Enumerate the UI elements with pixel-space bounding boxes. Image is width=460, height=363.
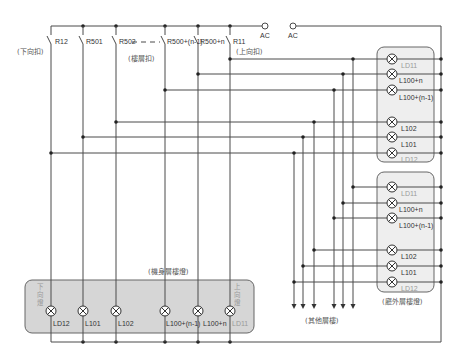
hall-upper-lamp-label: L100+(n-1) — [399, 94, 433, 102]
svg-text:燈: 燈 — [37, 298, 44, 307]
up-switch-caption: (上向扣) — [236, 47, 263, 56]
hall-lower-lamp-label: LD12 — [401, 285, 418, 292]
lamp-icon — [387, 198, 397, 208]
hall-upper-lamp-label: L100+n — [399, 77, 423, 84]
svg-text:下: 下 — [37, 283, 44, 291]
hall-lower-lamp-label: L100+n — [399, 206, 423, 213]
bottom-common-rail — [51, 340, 441, 344]
car-panel-up-indicator-text: 上 向 燈 — [234, 282, 241, 307]
lamp-icon — [387, 261, 397, 271]
lamp-icon — [111, 306, 121, 316]
svg-text:向: 向 — [234, 290, 241, 299]
lamp-icon — [78, 306, 88, 316]
elevator-floor-indicator-wiring-diagram: AC AC R12 R501 R502 R500+(n-1) R500+n R1… — [0, 0, 460, 363]
hall-lower-lamp-label: LD11 — [401, 190, 417, 197]
switch-label-r500-n-1: R500+(n-1) — [167, 38, 203, 46]
car-lamp-label: L102 — [118, 320, 134, 327]
switch-label-r12: R12 — [55, 38, 68, 45]
arrow-down-icon — [351, 304, 356, 309]
switch-label-r501: R501 — [86, 38, 103, 45]
hall-lower-lamp-label: L102 — [401, 253, 417, 260]
lamp-icon — [387, 277, 397, 287]
arrow-down-icon — [292, 304, 297, 309]
ac-terminal-right — [290, 23, 296, 29]
car-lamp-label: L100+n — [203, 320, 227, 327]
ac-terminal-left — [262, 23, 268, 29]
car-lamp-label: LD11 — [232, 320, 248, 327]
svg-text:向: 向 — [37, 290, 44, 299]
ac-label-left: AC — [260, 32, 270, 39]
arrow-down-icon — [332, 304, 337, 309]
switch-label-r502: R502 — [119, 38, 136, 45]
ac-label-right: AC — [288, 32, 298, 39]
hall-lower-lamp-label: L100+(n-1) — [399, 222, 433, 230]
lamp-icon — [387, 148, 397, 158]
lamp-icon — [225, 306, 235, 316]
other-floors-label: (其他層樓) — [305, 316, 339, 325]
car-panel-down-indicator-text: 下 向 燈 — [37, 283, 44, 307]
hall-upper-lamp-label: LD11 — [401, 62, 417, 69]
hall-upper-lamp-label: LD12 — [401, 156, 418, 163]
lamp-icon — [387, 69, 397, 79]
car-panel-title: (機身層樓燈) — [148, 267, 189, 276]
down-switch-caption: (下向扣) — [17, 47, 44, 56]
svg-text:燈: 燈 — [234, 298, 241, 307]
lamp-icon — [387, 117, 397, 127]
floor-switch-caption: (樓層扣) — [128, 54, 155, 63]
lamp-icon — [387, 54, 397, 64]
arrow-down-icon — [341, 304, 346, 309]
lamp-icon — [193, 306, 203, 316]
lamp-icon — [387, 213, 397, 223]
hall-upper-lamp-label: L102 — [401, 125, 417, 132]
lamp-icon — [160, 306, 170, 316]
arrow-down-icon — [312, 304, 317, 309]
svg-text:上: 上 — [234, 282, 241, 291]
lamp-icon — [387, 85, 397, 95]
hall-panel-caption: (廳外層樓燈) — [382, 297, 423, 306]
arrow-down-icon — [301, 304, 306, 309]
other-floor-drop-lines — [292, 57, 356, 309]
hall-upper-lamp-label: L101 — [401, 141, 417, 148]
car-lamp-label: L100+(n-1) — [166, 320, 200, 328]
switch-label-r500-n: R500+n — [200, 38, 225, 45]
car-lamp-label: LD12 — [53, 320, 70, 327]
lamp-icon — [387, 182, 397, 192]
hall-lower-lamp-label: L101 — [401, 269, 417, 276]
car-lamp-label: L101 — [85, 320, 101, 327]
switch-label-r11: R11 — [233, 38, 245, 45]
lamp-icon — [387, 132, 397, 142]
lamp-icon — [46, 306, 56, 316]
lamp-icon — [387, 245, 397, 255]
